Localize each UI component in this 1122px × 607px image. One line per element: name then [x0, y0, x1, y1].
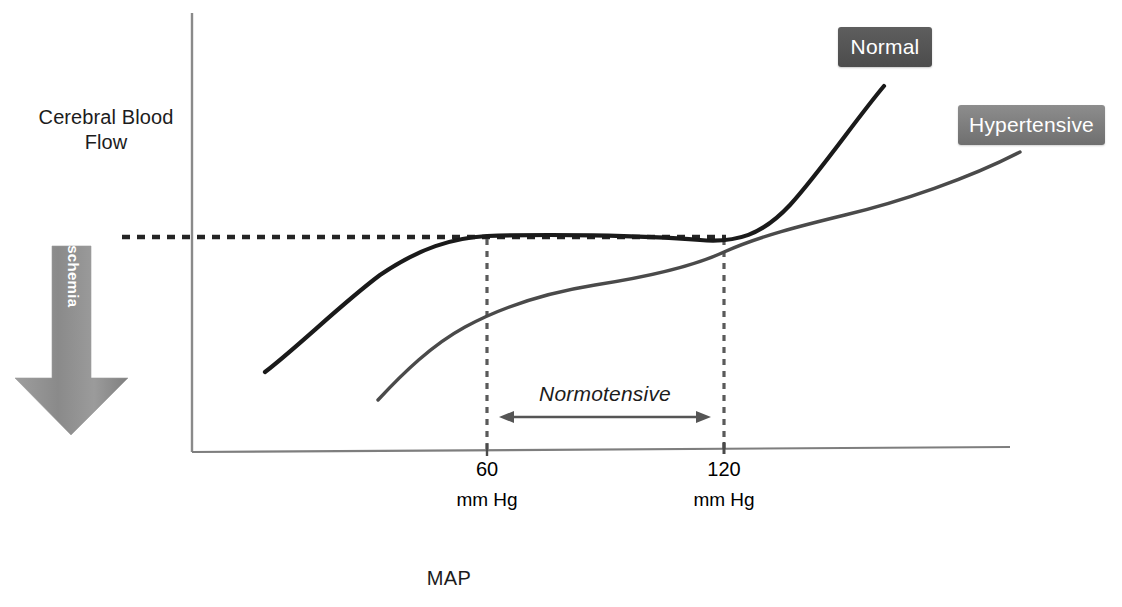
tick-value-120: 120: [707, 458, 740, 480]
ischemia-arrow-label: Ischemia: [62, 221, 82, 327]
x-axis-label: MAP: [389, 566, 509, 591]
tick-unit-60: mm Hg: [412, 489, 562, 511]
x-tick-label-120: 120 mm Hg: [649, 458, 799, 511]
normal-series-label: Normal: [838, 27, 932, 67]
tick-unit-120: mm Hg: [649, 489, 799, 511]
tick-value-60: 60: [476, 458, 498, 480]
y-axis-label: Cerebral Blood Flow: [35, 105, 177, 155]
chart-canvas: [0, 0, 1122, 607]
hypertensive-curve: [378, 152, 1020, 400]
normotensive-range-label: Normotensive: [505, 381, 705, 407]
normotensive-range-arrow: [499, 411, 711, 423]
hypertensive-series-label: Hypertensive: [958, 105, 1105, 145]
x-tick-label-60: 60 mm Hg: [412, 458, 562, 511]
cerebral-autoregulation-chart: Cerebral Blood Flow MAP 60 mm Hg 120 mm …: [0, 0, 1122, 607]
x-axis-line: [192, 447, 1010, 452]
